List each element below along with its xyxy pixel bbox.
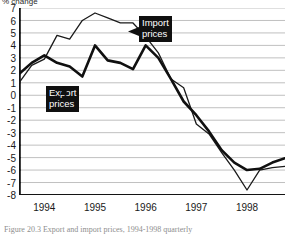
y-tick-label-3: 3 [10, 52, 16, 63]
callout-import-line2: prices [142, 29, 169, 40]
y-tick-label--4: -4 [7, 140, 16, 151]
x-tick-label-1997: 1997 [185, 202, 207, 213]
y-tick-label--8: -8 [7, 190, 16, 201]
y-tick-label-0: 0 [10, 90, 16, 101]
y-tick-label--5: -5 [7, 152, 16, 163]
callout-import-line1: Import [142, 18, 169, 29]
y-tick-label--6: -6 [7, 165, 16, 176]
y-tick-label-4: 4 [10, 40, 16, 51]
y-axis-tick-labels: 76543210-1-2-3-4-5-6-7-8 [0, 8, 17, 195]
x-tick-label-1994: 1994 [33, 202, 55, 213]
y-tick-label--1: -1 [7, 102, 16, 113]
y-tick-label--2: -2 [7, 115, 16, 126]
y-tick-label--3: -3 [7, 127, 16, 138]
x-tick-label-1995: 1995 [84, 202, 106, 213]
x-tick-label-1996: 1996 [135, 202, 157, 213]
callout-export-line2: prices [49, 99, 76, 110]
y-tick-label--7: -7 [7, 177, 16, 188]
x-axis-tick-labels: 19941995199619971998 [19, 198, 285, 216]
y-tick-label-6: 6 [10, 15, 16, 26]
figure-caption: Figure 20.3 Export and import prices, 19… [4, 225, 303, 234]
x-tick-label-1998: 1998 [236, 202, 258, 213]
y-tick-label-7: 7 [10, 3, 16, 14]
figure-container: % change 76543210-1-2-3-4-5-6-7-8 199419… [0, 0, 303, 236]
y-tick-label-1: 1 [10, 77, 16, 88]
y-tick-label-2: 2 [10, 65, 16, 76]
callout-export-line1: Export [49, 88, 76, 99]
y-tick-label-5: 5 [10, 27, 16, 38]
callout-import-prices: Import prices [139, 16, 172, 42]
y-axis-title: % change [2, 0, 38, 6]
callout-export-prices: Export prices [46, 86, 79, 112]
